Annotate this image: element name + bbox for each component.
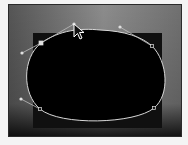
anchor-top-right[interactable] bbox=[151, 45, 154, 48]
handle-top-left-in-knob[interactable] bbox=[20, 51, 23, 54]
mask-editor-viewer[interactable] bbox=[0, 0, 188, 145]
anchor-top-left[interactable] bbox=[39, 41, 43, 45]
mask-path[interactable] bbox=[27, 29, 165, 121]
video-frame-canvas[interactable] bbox=[0, 0, 188, 145]
anchor-bottom-right[interactable] bbox=[153, 107, 156, 110]
handle-bottom-left-in-knob[interactable] bbox=[19, 97, 22, 100]
handle-top-right-in-knob[interactable] bbox=[118, 25, 121, 28]
anchor-bottom-left[interactable] bbox=[39, 108, 42, 111]
